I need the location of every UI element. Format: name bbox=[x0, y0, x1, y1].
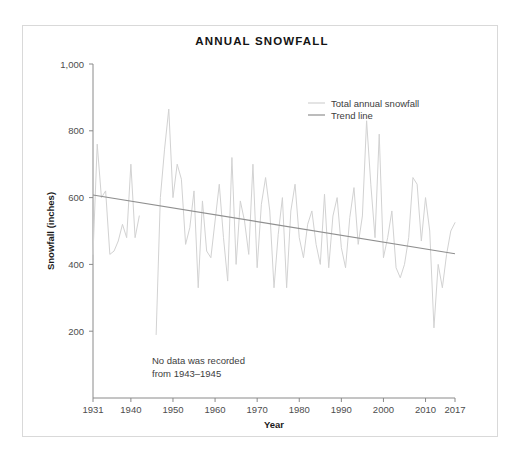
x-axis-tick-label: 1960 bbox=[204, 404, 225, 415]
legend-label-trend: Trend line bbox=[331, 110, 373, 121]
x-axis: 1931194019501960197019801990200020102017 bbox=[82, 398, 465, 415]
data-line-total-annual-snowfall bbox=[156, 109, 455, 334]
x-axis-tick-label: 2017 bbox=[444, 404, 465, 415]
series-trend-line bbox=[93, 195, 455, 254]
x-axis-tick-label: 1940 bbox=[120, 404, 141, 415]
chart-legend: Total annual snowfallTrend line bbox=[308, 98, 419, 121]
y-axis-tick-label: 1,000 bbox=[60, 59, 84, 70]
snowfall-line-chart: 2004006008001,000 1931194019501960197019… bbox=[0, 0, 524, 461]
axis-titles: Snowfall (inches)Year bbox=[45, 192, 284, 430]
y-axis-title: Snowfall (inches) bbox=[45, 192, 56, 270]
annotation-line-1: No data was recorded bbox=[152, 355, 245, 366]
x-axis-tick-label: 2000 bbox=[373, 404, 394, 415]
legend-label-series: Total annual snowfall bbox=[331, 98, 419, 109]
x-axis-tick-label: 1931 bbox=[82, 404, 103, 415]
no-data-annotation: No data was recordedfrom 1943–1945 bbox=[152, 355, 245, 379]
x-axis-tick-label: 1970 bbox=[247, 404, 268, 415]
annotation-line-2: from 1943–1945 bbox=[152, 368, 221, 379]
y-axis-tick-label: 400 bbox=[68, 259, 84, 270]
trend-line bbox=[93, 195, 455, 254]
y-axis-tick-label: 600 bbox=[68, 192, 84, 203]
data-line-total-annual-snowfall bbox=[93, 144, 139, 254]
x-axis-tick-label: 1990 bbox=[331, 404, 352, 415]
y-axis-tick-label: 800 bbox=[68, 125, 84, 136]
y-axis-tick-label: 200 bbox=[68, 326, 84, 337]
x-axis-tick-label: 2010 bbox=[415, 404, 436, 415]
x-axis-tick-label: 1980 bbox=[289, 404, 310, 415]
y-axis: 2004006008001,000 bbox=[60, 59, 93, 399]
chart-canvas: ANNUAL SNOWFALL 2004006008001,000 193119… bbox=[0, 0, 524, 461]
x-axis-tick-label: 1950 bbox=[162, 404, 183, 415]
series-total-annual-snowfall bbox=[93, 109, 455, 334]
x-axis-title: Year bbox=[264, 419, 284, 430]
